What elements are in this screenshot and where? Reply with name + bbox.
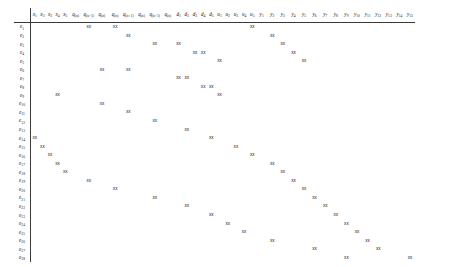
matrix-empty-cell [69, 66, 82, 75]
matrix-empty-cell [320, 160, 331, 169]
matrix-empty-cell [288, 202, 299, 211]
row-header-1: e1 [14, 23, 31, 32]
matrix-empty-cell [135, 220, 148, 229]
matrix-empty-cell [352, 74, 363, 83]
matrix-empty-cell [31, 177, 39, 186]
matrix-empty-cell [405, 202, 416, 211]
matrix-empty-cell [232, 151, 240, 160]
matrix-empty-cell [31, 168, 39, 177]
matrix-mark-cell: x [267, 32, 278, 41]
matrix-empty-cell [82, 185, 95, 194]
matrix-empty-cell [394, 160, 405, 169]
matrix-empty-cell [394, 228, 405, 237]
matrix-empty-cell [215, 134, 223, 143]
matrix-empty-cell [331, 177, 342, 186]
matrix-empty-cell [309, 83, 320, 92]
matrix-empty-cell [240, 57, 248, 66]
matrix-empty-cell [248, 40, 256, 49]
matrix-empty-cell [148, 49, 161, 58]
matrix-empty-cell [46, 91, 54, 100]
matrix-empty-cell [232, 91, 240, 100]
matrix-empty-cell [82, 245, 95, 254]
matrix-empty-cell [215, 185, 223, 194]
matrix-empty-cell [215, 211, 223, 220]
matrix-empty-cell [288, 160, 299, 169]
matrix-empty-cell [109, 202, 122, 211]
matrix-empty-cell [256, 126, 267, 135]
matrix-empty-cell [394, 177, 405, 186]
matrix-empty-cell [69, 168, 82, 177]
matrix-empty-cell [54, 108, 62, 117]
matrix-empty-cell [61, 228, 69, 237]
column-header-12: q(n+1) [148, 8, 161, 23]
matrix-empty-cell [183, 177, 191, 186]
matrix-empty-cell [95, 143, 108, 152]
matrix-empty-cell [199, 117, 207, 126]
matrix-empty-cell [135, 23, 148, 32]
matrix-empty-cell [46, 237, 54, 246]
matrix-empty-cell [224, 108, 232, 117]
matrix-empty-cell [54, 23, 62, 32]
matrix-mark-cell: x [288, 177, 299, 186]
matrix-empty-cell [161, 40, 174, 49]
matrix-empty-cell [405, 83, 416, 92]
matrix-empty-cell [394, 254, 405, 263]
matrix-empty-cell [39, 237, 47, 246]
row-header-label: e9 [20, 92, 24, 98]
matrix-empty-cell [174, 134, 182, 143]
matrix-empty-cell [362, 151, 373, 160]
matrix-empty-cell [31, 66, 39, 75]
matrix-mark-cell: x [309, 245, 320, 254]
matrix-empty-cell [95, 211, 108, 220]
matrix-empty-cell [278, 126, 289, 135]
matrix-empty-cell [61, 23, 69, 32]
matrix-empty-cell [39, 126, 47, 135]
matrix-empty-cell [383, 151, 394, 160]
matrix-empty-cell [309, 151, 320, 160]
column-header-label: u5 [250, 11, 254, 17]
matrix-empty-cell [109, 168, 122, 177]
matrix-empty-cell [215, 177, 223, 186]
matrix-empty-cell [278, 177, 289, 186]
matrix-empty-cell [299, 254, 310, 263]
matrix-empty-cell [82, 83, 95, 92]
matrix-empty-cell [373, 74, 384, 83]
matrix-empty-cell [341, 228, 352, 237]
matrix-empty-cell [183, 143, 191, 152]
matrix-empty-cell [39, 40, 47, 49]
matrix-empty-cell [288, 83, 299, 92]
matrix-empty-cell [341, 83, 352, 92]
matrix-empty-cell [362, 108, 373, 117]
matrix-empty-cell [148, 83, 161, 92]
matrix-empty-cell [331, 237, 342, 246]
matrix-empty-cell [405, 40, 416, 49]
matrix-empty-cell [135, 108, 148, 117]
matrix-empty-cell [199, 168, 207, 177]
row-header-subscript: 25 [21, 232, 25, 236]
matrix-empty-cell [39, 202, 47, 211]
matrix-empty-cell [183, 117, 191, 126]
matrix-empty-cell [320, 126, 331, 135]
matrix-empty-cell [240, 23, 248, 32]
matrix-empty-cell [331, 66, 342, 75]
matrix-empty-cell [288, 194, 299, 203]
column-header-label: q(n) [138, 11, 145, 17]
matrix-empty-cell [46, 83, 54, 92]
matrix-empty-cell [109, 254, 122, 263]
matrix-empty-cell [362, 202, 373, 211]
matrix-empty-cell [299, 168, 310, 177]
matrix-empty-cell [248, 74, 256, 83]
matrix-empty-cell [207, 143, 215, 152]
matrix-empty-cell [191, 91, 199, 100]
matrix-empty-cell [240, 151, 248, 160]
table-row: e18xx [14, 168, 415, 177]
matrix-empty-cell [224, 168, 232, 177]
matrix-empty-cell [31, 108, 39, 117]
matrix-mark-cell: x [207, 83, 215, 92]
column-header-subscript: 2 [187, 14, 189, 18]
matrix-empty-cell [224, 100, 232, 109]
matrix-empty-cell [122, 160, 135, 169]
column-header-subscript: 4 [294, 14, 296, 18]
matrix-mark-cell: x [31, 134, 39, 143]
matrix-empty-cell [278, 117, 289, 126]
